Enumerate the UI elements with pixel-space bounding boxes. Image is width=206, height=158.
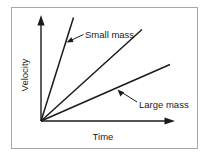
velocity-time-graph-figure: Small mass Large mass Time Velocity (0, 0, 206, 158)
x-axis-label: Time (93, 131, 114, 142)
y-axis-label: Velocity (19, 58, 30, 91)
small-mass-label: Small mass (85, 29, 134, 40)
large-mass-label: Large mass (139, 99, 189, 110)
graph-canvas: Small mass Large mass Time Velocity (0, 0, 206, 158)
